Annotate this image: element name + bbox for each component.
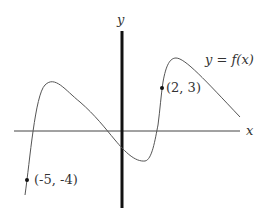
- curve-label: y = f(x): [204, 52, 254, 67]
- point-label-neg5-neg4: (-5, -4): [34, 172, 78, 187]
- graph-canvas: y x y = f(x) (-5, -4) (2, 3): [0, 0, 266, 217]
- point-marker-2-3: [160, 86, 164, 90]
- point-label-2-3: (2, 3): [166, 80, 201, 95]
- y-axis-label: y: [116, 12, 125, 27]
- point-marker-neg5-neg4: [25, 178, 29, 182]
- x-axis-label: x: [246, 123, 254, 138]
